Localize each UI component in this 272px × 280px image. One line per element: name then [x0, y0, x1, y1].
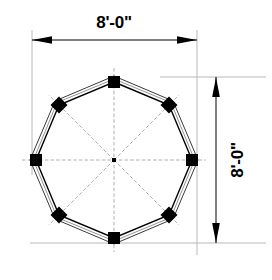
vertex-marker-square-right — [186, 154, 198, 166]
arrow-up-icon — [212, 77, 220, 97]
vertical-dimension-label: 8'-0" — [228, 142, 247, 178]
vertex-marker-square-bottom — [108, 232, 120, 244]
arrow-left-icon — [32, 36, 52, 44]
horizontal-dimension-label: 8'-0" — [96, 13, 132, 32]
vertical-dimension: 8'-0" — [212, 77, 247, 243]
arrow-right-icon — [177, 36, 197, 44]
vertex-marker-square-top — [108, 76, 120, 88]
vertex-marker-square-left — [30, 154, 42, 166]
cad-drawing-canvas: 8'-0" 8'-0" — [0, 0, 272, 280]
octagon-plan-svg: 8'-0" 8'-0" — [0, 0, 272, 280]
arrow-down-icon — [212, 223, 220, 243]
center-mark — [112, 158, 116, 162]
horizontal-dimension: 8'-0" — [32, 13, 197, 44]
